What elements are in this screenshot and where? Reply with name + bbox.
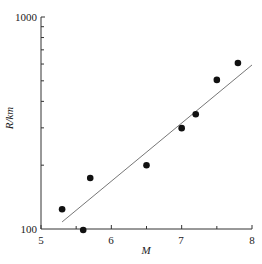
x-axis-label: M — [140, 244, 151, 256]
y-tick-1000: 1000 — [15, 11, 38, 23]
data-point — [214, 77, 221, 84]
x-tick-5: 5 — [38, 234, 44, 246]
data-point — [59, 206, 66, 213]
scatter-chart: 8 7 6 5 100 1000 M R/km — [0, 0, 262, 264]
fit-line — [62, 65, 252, 222]
x-tick-8: 8 — [249, 234, 255, 246]
axes — [41, 17, 252, 229]
data-points — [59, 60, 241, 234]
x-tick-6: 6 — [108, 234, 114, 246]
data-point — [87, 175, 94, 182]
y-axis-label: R/km — [3, 107, 15, 131]
data-point — [80, 227, 87, 234]
data-point — [192, 111, 199, 118]
data-point — [235, 60, 242, 67]
data-point — [143, 162, 150, 169]
y-tick-100: 100 — [21, 223, 38, 235]
x-tick-7: 7 — [178, 234, 184, 246]
data-point — [178, 125, 185, 132]
